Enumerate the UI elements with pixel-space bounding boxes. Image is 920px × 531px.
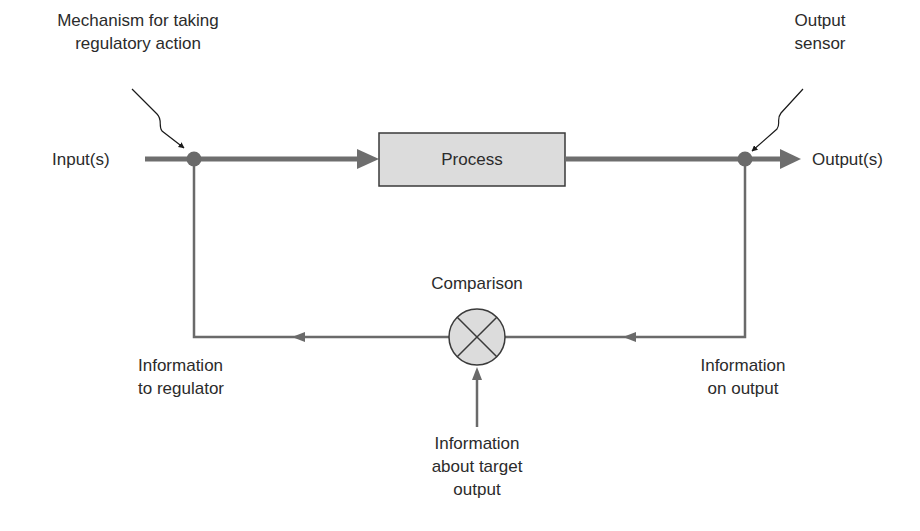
info-on-output-label: Information on output xyxy=(683,354,803,400)
arrow-up-icon xyxy=(472,367,482,380)
info-target-line-2: about target xyxy=(407,455,547,478)
input-flow-line xyxy=(145,149,379,169)
mechanism-label: Mechanism for taking regulatory action xyxy=(28,9,248,55)
sensor-junction-node xyxy=(738,152,753,167)
info-on-output-line-2: on output xyxy=(683,377,803,400)
comparison-label-text: Comparison xyxy=(431,274,523,293)
comparison-node xyxy=(449,309,505,365)
mechanism-pointer-line xyxy=(132,89,184,148)
info-to-regulator-label: Information to regulator xyxy=(138,354,258,400)
process-label-text: Process xyxy=(441,150,502,169)
inputs-label: Input(s) xyxy=(52,148,132,171)
info-to-regulator-line-2: to regulator xyxy=(138,377,258,400)
comparison-label: Comparison xyxy=(407,272,547,295)
output-flow-line xyxy=(565,149,801,169)
info-target-line-3: output xyxy=(407,478,547,501)
sensor-pointer-line xyxy=(752,89,803,151)
arrow-into-process-icon xyxy=(357,149,379,169)
feedback-arrow-left-icon xyxy=(292,332,305,342)
arrow-to-output-icon xyxy=(780,149,801,169)
output-sensor-label-line-2: sensor xyxy=(770,32,870,55)
outputs-label: Output(s) xyxy=(812,148,902,171)
mechanism-label-line-1: Mechanism for taking xyxy=(28,9,248,32)
info-to-regulator-line-1: Information xyxy=(138,354,258,377)
info-on-output-line-1: Information xyxy=(683,354,803,377)
info-target-line-1: Information xyxy=(407,432,547,455)
info-target-label: Information about target output xyxy=(407,432,547,501)
feedback-arrow-right-icon xyxy=(623,332,636,342)
output-sensor-label: Output sensor xyxy=(770,9,870,55)
regulator-junction-node xyxy=(187,152,202,167)
inputs-label-text: Input(s) xyxy=(52,150,110,169)
output-sensor-label-line-1: Output xyxy=(770,9,870,32)
target-input-arrow xyxy=(472,367,482,427)
outputs-label-text: Output(s) xyxy=(812,150,883,169)
process-label: Process xyxy=(379,148,565,171)
mechanism-label-line-2: regulatory action xyxy=(28,32,248,55)
